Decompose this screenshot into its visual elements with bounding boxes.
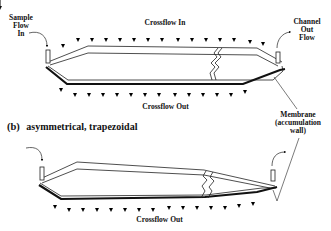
crossflow-out-label-a: Crossflow Out [128,103,203,111]
channel-out-flow-label: Channel Out Flow [287,18,327,42]
crossflow-in-arrows [0,0,2,10]
panel-b-curved-arrows [26,148,285,167]
panel-b-heading: (b) asymmetrical, trapezoidal [7,121,137,132]
panel-a-channel [46,46,285,84]
crossflow-out-label-b: Crossflow Out [122,216,197,224]
membrane-label: Membrane (accumulation wall) [270,111,326,135]
panel-b-title: asymmetrical, trapezoidal [26,121,137,132]
sample-flow-in-label: Sample Flow In [6,14,36,38]
crossflow-in-arrow-row [61,32,265,48]
panel-b-tag: (b) [7,121,20,132]
crossflow-in-label: Crossflow In [130,19,200,27]
fff-channel-diagram: Sample Flow In Crossflow In Channel Out … [0,0,331,231]
panel-b-channel [39,77,299,201]
